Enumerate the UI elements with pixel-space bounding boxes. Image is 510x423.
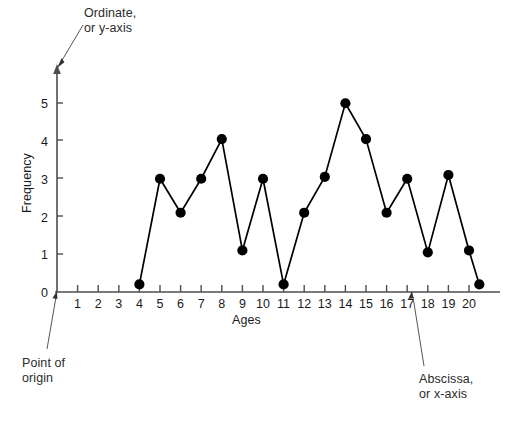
- y-tick-label: 2: [41, 211, 48, 225]
- x-tick-label: 19: [441, 297, 455, 311]
- x-axis-title: Ages: [232, 313, 261, 327]
- data-point: [464, 245, 474, 255]
- x-tick-label: 10: [256, 297, 270, 311]
- x-tick-label: 14: [338, 297, 352, 311]
- x-tick-label: 12: [297, 297, 311, 311]
- data-point: [443, 170, 453, 180]
- data-point: [423, 247, 433, 257]
- data-point: [134, 279, 144, 289]
- data-point: [340, 98, 350, 108]
- annotation-abscissa-line2: or x-axis: [419, 387, 473, 402]
- annotation-abscissa: Abscissa, or x-axis: [419, 372, 473, 402]
- y-tick-label: 3: [41, 173, 48, 187]
- frequency-polygon-chart: 012345 1234567891011121314151617181920: [0, 0, 510, 423]
- x-axis: [55, 285, 500, 292]
- data-point: [176, 208, 186, 218]
- x-tick-label: 3: [115, 297, 122, 311]
- y-tick-label: 4: [41, 135, 48, 149]
- x-tick-label: 6: [177, 297, 184, 311]
- y-axis-title: Frequency: [20, 138, 34, 228]
- y-tick-label: 1: [41, 248, 48, 262]
- x-tick-label: 15: [359, 297, 373, 311]
- x-tick-label: 4: [136, 297, 143, 311]
- x-tick-label: 17: [400, 297, 414, 311]
- x-tick-label: 1: [74, 297, 81, 311]
- data-point: [474, 279, 484, 289]
- data-point: [382, 208, 392, 218]
- annotation-ordinate-line2: or y-axis: [84, 21, 136, 36]
- x-tick-label: 7: [198, 297, 205, 311]
- y-tick-label: 0: [41, 286, 48, 300]
- data-point: [196, 174, 206, 184]
- x-tick-label: 20: [462, 297, 476, 311]
- data-point: [279, 279, 289, 289]
- data-point: [320, 172, 330, 182]
- annotation-origin-line1: Point of: [22, 356, 65, 371]
- chart-figure: 012345 1234567891011121314151617181920 F…: [0, 0, 510, 423]
- ordinate-arrow-icon: [57, 58, 64, 68]
- x-tick-label: 8: [218, 297, 225, 311]
- data-point: [258, 174, 268, 184]
- x-tick-labels: 1234567891011121314151617181920: [74, 297, 476, 311]
- x-tick-label: 11: [277, 297, 290, 311]
- data-point: [155, 174, 165, 184]
- data-point: [237, 245, 247, 255]
- y-tick-label: 5: [41, 97, 48, 111]
- data-point: [402, 174, 412, 184]
- y-axis: [53, 64, 63, 292]
- x-tick-label: 5: [157, 297, 164, 311]
- x-tick-label: 13: [318, 297, 332, 311]
- annotation-point-of-origin: Point of origin: [22, 356, 65, 386]
- annotation-abscissa-line1: Abscissa,: [419, 372, 473, 387]
- x-tick-label: 9: [239, 297, 246, 311]
- x-tick-label: 18: [421, 297, 435, 311]
- data-point: [299, 208, 309, 218]
- annotation-origin-line2: origin: [22, 371, 65, 386]
- y-tick-labels: 012345: [41, 97, 48, 300]
- annotation-ordinate-line1: Ordinate,: [84, 6, 136, 21]
- x-tick-label: 16: [380, 297, 394, 311]
- data-series: [134, 98, 484, 289]
- origin-arrow-icon: [52, 291, 57, 299]
- data-point: [361, 134, 371, 144]
- annotation-ordinate: Ordinate, or y-axis: [84, 6, 136, 36]
- x-tick-label: 2: [95, 297, 102, 311]
- data-point: [217, 134, 227, 144]
